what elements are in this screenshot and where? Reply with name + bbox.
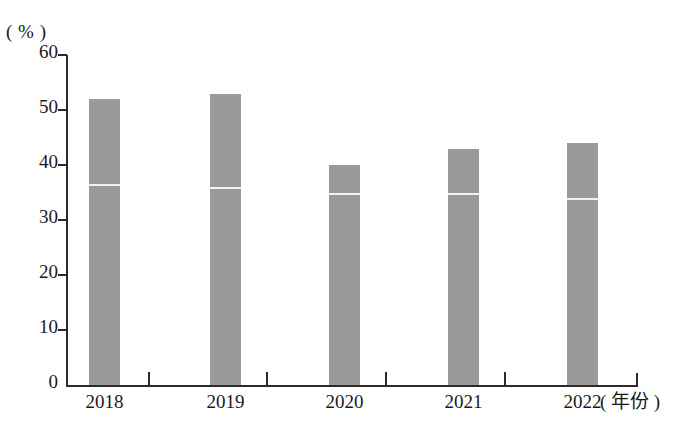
x-axis-tick-mark bbox=[385, 372, 387, 386]
y-axis-tick-label: 40 bbox=[0, 152, 58, 171]
bar-marker-line bbox=[567, 198, 598, 200]
x-axis-tick-label: 2021 bbox=[409, 392, 519, 413]
x-axis-tick-label: 2020 bbox=[290, 392, 400, 413]
y-axis-unit-label: ( % ) bbox=[6, 21, 46, 43]
bar bbox=[567, 143, 598, 385]
y-axis-tick-mark bbox=[58, 219, 67, 221]
bar-chart: ( % ) 6050403020100 20182019202020212022… bbox=[0, 0, 692, 437]
x-axis-tick-mark bbox=[504, 372, 506, 386]
x-axis-end-cap bbox=[636, 373, 638, 386]
y-axis-tick-label: 30 bbox=[0, 207, 58, 226]
bar bbox=[89, 99, 120, 385]
y-axis-tick-label: 10 bbox=[0, 317, 58, 336]
x-axis-tick-label: 2018 bbox=[50, 392, 160, 413]
x-axis-tick-mark bbox=[266, 372, 268, 386]
x-axis-line bbox=[66, 385, 638, 387]
bar-marker-line bbox=[329, 193, 360, 195]
y-axis-tick-mark bbox=[58, 54, 67, 56]
bar bbox=[448, 149, 479, 386]
y-axis-tick-mark bbox=[58, 164, 67, 166]
bar-marker-line bbox=[448, 193, 479, 195]
x-axis-tick-label: 2019 bbox=[171, 392, 281, 413]
y-axis-tick-mark bbox=[58, 274, 67, 276]
y-axis-tick-label: 50 bbox=[0, 97, 58, 116]
y-axis-tick-mark bbox=[58, 109, 67, 111]
y-axis-tick-label: 20 bbox=[0, 262, 58, 281]
x-axis-tick-mark bbox=[148, 372, 150, 386]
y-axis-tick-mark bbox=[58, 329, 67, 331]
bar-marker-line bbox=[89, 184, 120, 186]
bar-marker-line bbox=[210, 187, 241, 189]
bar bbox=[210, 94, 241, 386]
y-axis-tick-label: 0 bbox=[0, 372, 58, 391]
y-axis-tick-label: 60 bbox=[0, 42, 58, 61]
bar bbox=[329, 165, 360, 385]
x-axis-unit-label: ( 年份 ) bbox=[600, 392, 660, 413]
